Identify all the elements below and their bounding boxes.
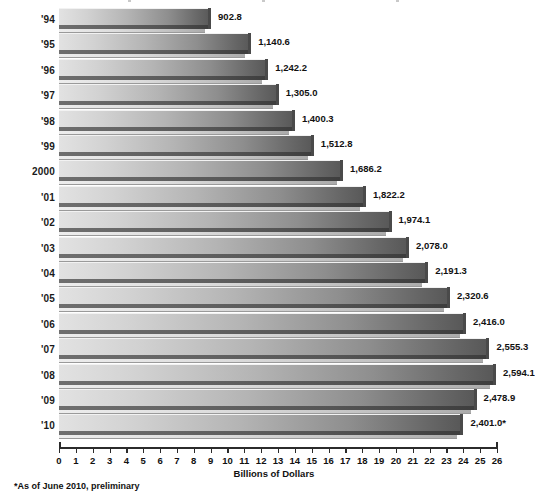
bar-row: '981,400.3 <box>0 110 528 134</box>
bar-shadow-shelf <box>59 105 273 109</box>
bar-end-cap <box>340 160 343 181</box>
bar[interactable] <box>59 8 211 32</box>
bar-face <box>59 364 496 382</box>
category-label-96: '96 <box>9 59 55 83</box>
bar[interactable] <box>59 389 477 413</box>
bar-value-label: 2,478.9 <box>484 390 516 406</box>
bar-value-label: 2,401.0* <box>470 415 505 431</box>
x-tick <box>312 447 313 453</box>
bar-face <box>59 8 211 26</box>
bar[interactable] <box>59 110 295 134</box>
x-tick <box>430 447 431 453</box>
bar[interactable] <box>59 338 489 362</box>
bar-shadow-shelf <box>59 359 483 363</box>
x-tick <box>446 447 447 453</box>
category-label-06: '06 <box>9 313 55 337</box>
bar-end-cap <box>463 313 466 334</box>
bar-value-label: 1,686.2 <box>350 161 382 177</box>
bar-shadow-shelf <box>59 435 457 439</box>
bar-row: '94902.8 <box>0 8 528 32</box>
bar-end-cap <box>389 211 392 232</box>
category-label-01: '01 <box>9 186 55 210</box>
bar[interactable] <box>59 287 450 311</box>
bar-value-label: 2,416.0 <box>473 314 505 330</box>
bar[interactable] <box>59 414 463 438</box>
x-tick-label-26: 26 <box>486 454 508 467</box>
bar[interactable] <box>59 211 392 235</box>
bar-end-cap <box>447 287 450 308</box>
bar[interactable] <box>59 59 268 83</box>
x-axis-title: Billions of Dollars <box>0 468 528 479</box>
bar-row: '082,594.1 <box>0 364 528 388</box>
x-tick <box>244 447 245 453</box>
x-tick <box>211 447 212 453</box>
bar-value-label: 1,140.6 <box>258 34 290 50</box>
bar[interactable] <box>59 364 496 388</box>
bar-row: '951,140.6 <box>0 33 528 57</box>
bar-shadow-shelf <box>59 207 360 211</box>
x-tick <box>59 447 60 453</box>
bar-row: 20001,686.2 <box>0 160 528 184</box>
bar-face <box>59 84 279 102</box>
x-tick <box>345 447 346 453</box>
bar-shadow-shelf <box>59 385 490 389</box>
bar[interactable] <box>59 135 314 159</box>
bar-value-label: 1,400.3 <box>302 111 334 127</box>
bar-end-cap <box>363 186 366 207</box>
bar-row: '042,191.3 <box>0 262 528 286</box>
x-tick <box>497 447 498 453</box>
bar-value-label: 2,078.0 <box>416 238 448 254</box>
bar[interactable] <box>59 33 251 57</box>
bar[interactable] <box>59 186 366 210</box>
category-label-94: '94 <box>9 8 55 32</box>
bar-shadow-shelf <box>59 54 245 58</box>
x-tick <box>329 447 330 453</box>
category-label-09: '09 <box>9 389 55 413</box>
bar-row: '961,242.2 <box>0 59 528 83</box>
bar-end-cap <box>292 110 295 131</box>
bar[interactable] <box>59 84 279 108</box>
bar-shadow-shelf <box>59 283 422 287</box>
bar-row: '971,305.0 <box>0 84 528 108</box>
bar-face <box>59 389 477 407</box>
bar[interactable] <box>59 313 466 337</box>
x-tick <box>362 447 363 453</box>
bar-face <box>59 110 295 128</box>
chart-footnote: *As of June 2010, preliminary <box>14 481 140 491</box>
bar-shadow-shelf <box>59 334 460 338</box>
x-tick <box>396 447 397 453</box>
bar-shadow-shelf <box>59 258 403 262</box>
x-tick <box>143 447 144 453</box>
bar-end-cap <box>311 135 314 156</box>
bar-face <box>59 135 314 153</box>
category-label-98: '98 <box>9 110 55 134</box>
bar-shadow-shelf <box>59 131 289 135</box>
bar-end-cap <box>460 414 463 435</box>
category-label-99: '99 <box>9 135 55 159</box>
category-label-02: '02 <box>9 211 55 235</box>
bar-end-cap <box>425 262 428 283</box>
bar[interactable] <box>59 262 428 286</box>
bar-face <box>59 262 428 280</box>
bar-value-label: 2,191.3 <box>435 263 467 279</box>
bar-row: '011,822.2 <box>0 186 528 210</box>
category-label-2000: 2000 <box>9 160 55 184</box>
bar-face <box>59 414 463 432</box>
bar-row: '072,555.3 <box>0 338 528 362</box>
bar-end-cap <box>208 8 211 29</box>
category-label-08: '08 <box>9 364 55 388</box>
category-label-07: '07 <box>9 338 55 362</box>
bar[interactable] <box>59 160 343 184</box>
bar-end-cap <box>276 84 279 105</box>
bar-face <box>59 160 343 178</box>
bar-face <box>59 338 489 356</box>
bar-value-label: 902.8 <box>218 9 242 25</box>
bar-face <box>59 186 366 204</box>
bar-face <box>59 287 450 305</box>
category-label-03: '03 <box>9 237 55 261</box>
x-tick <box>295 447 296 453</box>
bar-end-cap <box>248 33 251 54</box>
bar[interactable] <box>59 237 409 261</box>
category-label-05: '05 <box>9 287 55 311</box>
